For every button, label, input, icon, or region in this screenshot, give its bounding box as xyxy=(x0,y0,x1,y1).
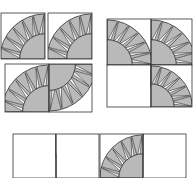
quilt-block-diagram xyxy=(0,0,196,178)
quilt-block xyxy=(47,13,92,59)
quilt-block xyxy=(49,64,96,112)
layout-a xyxy=(0,13,96,112)
quilt-block xyxy=(2,64,49,112)
quilt-block xyxy=(151,65,192,107)
quilt-block xyxy=(0,13,45,59)
layout-b xyxy=(107,19,196,108)
quilt-block xyxy=(100,134,143,178)
quilt-block xyxy=(151,19,196,65)
quilt-block xyxy=(107,19,152,65)
layout-c xyxy=(13,134,186,178)
